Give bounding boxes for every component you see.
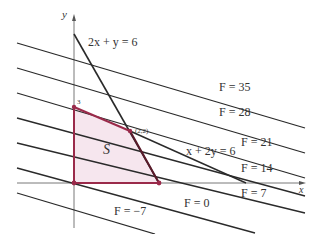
level-line-f35: [17, 43, 305, 128]
level-label-f14: F = 14: [241, 161, 272, 175]
y-axis-arrow-icon: [72, 14, 76, 21]
vertex-3-0: [157, 181, 162, 186]
diagram-canvas: y x 2x + y = 6 x + 2y = 6 S 3 (2,2) F = …: [0, 0, 319, 234]
level-label-fm7: F = −7: [114, 204, 146, 218]
vertex-label-2-2: (2,2): [135, 127, 149, 135]
level-label-f0: F = 0: [184, 196, 209, 210]
y-axis-label: y: [61, 8, 67, 20]
constraint-label-x-plus-2y: x + 2y = 6: [186, 144, 236, 158]
level-label-f35: F = 35: [219, 80, 250, 94]
level-label-f28: F = 28: [219, 105, 250, 119]
vertex-origin: [72, 181, 77, 186]
level-label-f21: F = 21: [241, 135, 272, 149]
level-line-f7: [17, 143, 305, 213]
vertex-label-3: 3: [77, 98, 81, 106]
region-label: S: [103, 142, 110, 157]
constraint-label-2x-plus-y: 2x + y = 6: [88, 35, 138, 49]
vertex-2-2: [128, 129, 132, 133]
x-axis-label: x: [298, 184, 304, 195]
level-label-f7: F = 7: [241, 186, 266, 200]
vertex-0-3: [72, 105, 76, 109]
